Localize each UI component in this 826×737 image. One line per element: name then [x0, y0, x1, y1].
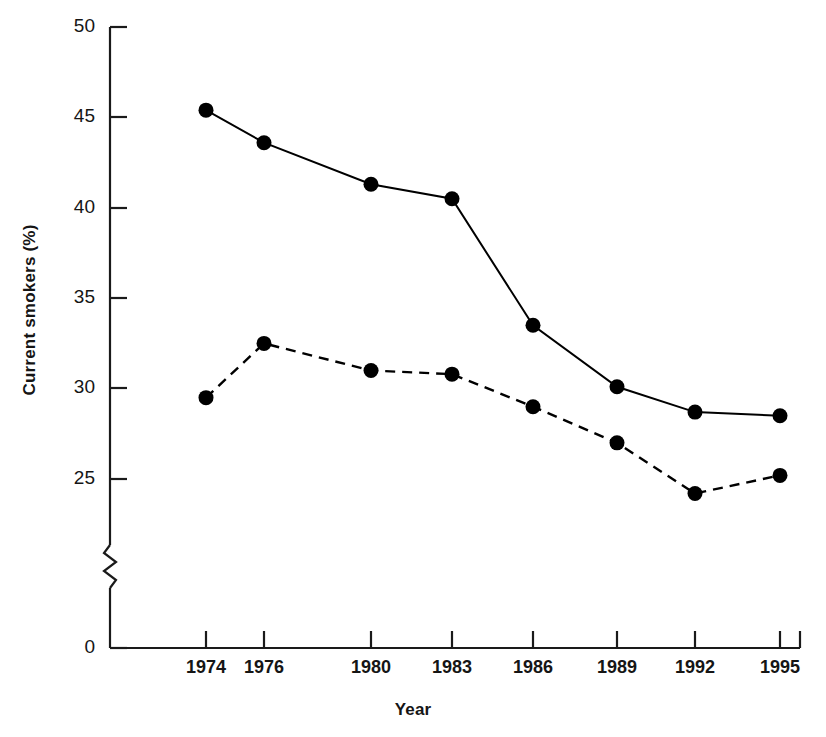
y-tick-label-0: 0 — [35, 636, 95, 658]
data-point — [364, 363, 379, 378]
y-tick-marks — [110, 27, 127, 648]
data-point — [526, 318, 541, 333]
series-dashed-series — [199, 336, 788, 501]
x-tick-label-1989: 1989 — [572, 657, 662, 678]
data-point — [257, 336, 272, 351]
data-point — [688, 405, 703, 420]
x-tick-marks — [206, 631, 800, 648]
x-tick-label-1992: 1992 — [650, 657, 740, 678]
data-point — [773, 408, 788, 423]
series-solid-series — [199, 103, 788, 424]
data-series-layer — [199, 103, 788, 501]
data-point — [199, 103, 214, 118]
x-tick-label-1983: 1983 — [407, 657, 497, 678]
data-point — [364, 177, 379, 192]
x-tick-label-1980: 1980 — [326, 657, 416, 678]
y-tick-label-40: 40 — [35, 196, 95, 218]
line-chart-plot — [0, 0, 826, 737]
y-axis-break-zigzag — [104, 545, 116, 588]
data-point — [773, 468, 788, 483]
data-point — [610, 435, 625, 450]
y-tick-label-50: 50 — [35, 15, 95, 37]
x-tick-label-1995: 1995 — [735, 657, 825, 678]
data-point — [257, 135, 272, 150]
y-tick-label-30: 30 — [35, 376, 95, 398]
axis-lines — [104, 27, 800, 648]
x-axis-title: Year — [0, 700, 826, 720]
series-line-solid-series — [206, 110, 780, 416]
y-tick-label-25: 25 — [35, 467, 95, 489]
data-point — [526, 399, 541, 414]
y-tick-label-35: 35 — [35, 286, 95, 308]
data-point — [199, 390, 214, 405]
chart-container: 50 45 40 35 30 25 0 1974 1976 1980 1983 … — [0, 0, 826, 737]
x-tick-label-1986: 1986 — [488, 657, 578, 678]
data-point — [688, 486, 703, 501]
x-tick-label-1976: 1976 — [219, 657, 309, 678]
y-tick-label-45: 45 — [35, 105, 95, 127]
y-axis-title: Current smokers (%) — [20, 160, 40, 460]
data-point — [445, 367, 460, 382]
data-point — [610, 379, 625, 394]
data-point — [445, 191, 460, 206]
